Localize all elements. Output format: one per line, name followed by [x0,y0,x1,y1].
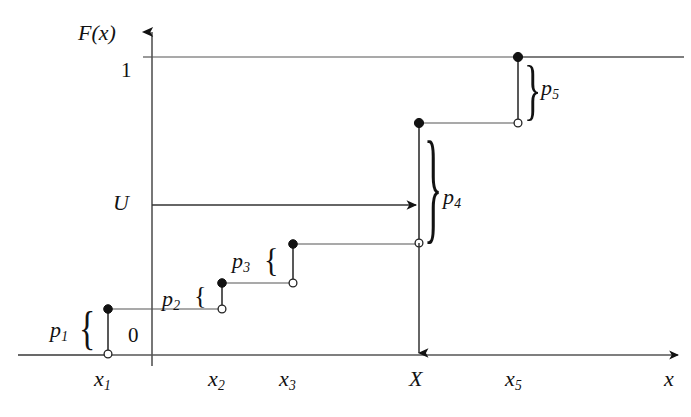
jump-label-p1-sub: 1 [61,329,68,344]
closed-dot-x1 [104,305,113,314]
jump-label-p4-base: p [443,184,454,209]
jump-label-p2-sub: 2 [173,298,180,313]
x-tick-label-x5-base: x [505,366,515,391]
jump-label-p1: p1 [50,319,68,344]
x-tick-label-x3: x3 [279,368,296,393]
closed-dot-x2 [218,279,227,288]
x-axis-label: x [664,368,674,390]
x-tick-label-x1: x1 [94,368,111,393]
y-tick-label-zero: 0 [128,325,139,346]
x-tick-label-x2-sub: 2 [218,378,225,393]
closed-dot-x3 [289,240,298,249]
open-dot-x5 [514,119,522,127]
closed-dot-x5 [513,52,522,61]
jump-brace-p4: } [424,121,442,246]
y-axis-label: F(x) [78,22,116,44]
closed-endpoint-markers [104,52,523,313]
open-dot-x3 [289,279,297,287]
jump-brace-p3: { [264,242,278,277]
open-dot-x2 [218,305,226,313]
jump-brace-p1: { [79,306,95,352]
x-tick-label-x1-sub: 1 [104,378,111,393]
cdf-inverse-transform-figure: F(x) 1 U 0 x x1 x2 x3 X x5 p1 { p2 { p3 … [0,0,691,417]
jump-label-p5: p5 [541,77,559,102]
jump-label-p1-base: p [50,317,61,342]
x-tick-label-X-base: X [409,366,422,391]
y-tick-label-one: 1 [121,60,132,81]
x-tick-label-x3-base: x [279,366,289,391]
y-tick-label-u: U [113,192,129,214]
x-tick-label-x2: x2 [208,368,225,393]
jump-label-p3: p3 [232,250,250,275]
x-tick-label-x1-base: x [94,366,104,391]
closed-dot-X [414,118,423,127]
jump-label-p3-base: p [232,248,243,273]
open-dot-x1 [104,350,112,358]
jump-brace-p5: } [524,56,541,123]
jump-label-p4: p4 [443,186,461,211]
x-tick-label-x3-sub: 3 [289,378,296,393]
jump-label-p5-sub: 5 [552,87,559,102]
figure-canvas [0,0,691,417]
x-tick-label-X: X [409,368,423,393]
jump-label-p2: p2 [162,288,180,313]
x-tick-label-x2-base: x [208,366,218,391]
x-tick-label-x5-sub: 5 [515,378,522,393]
jump-label-p3-sub: 3 [243,260,250,275]
jump-brace-p2: { [194,283,206,309]
jump-label-p4-sub: 4 [454,196,461,211]
x-tick-label-x5: x5 [505,368,522,393]
jump-label-p2-base: p [162,286,173,311]
jump-label-p5-base: p [541,75,552,100]
open-endpoint-markers [104,119,522,358]
